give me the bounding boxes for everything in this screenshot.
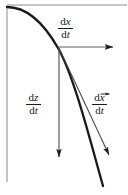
vector-derivative-figure: dx dt dz dt dx dt xyxy=(0,0,128,195)
variable-z: z xyxy=(34,91,38,103)
fraction-dx-dt: dx dt xyxy=(58,16,73,40)
label-dvecx-dt: dx dt xyxy=(92,88,107,116)
variable-x: x xyxy=(100,91,105,103)
fraction-denominator: dt xyxy=(94,105,105,117)
variable-t: t xyxy=(67,28,70,40)
variable-t: t xyxy=(35,104,38,116)
trajectory-curve xyxy=(7,7,103,186)
fraction-numerator: dx xyxy=(93,92,105,104)
fraction-dvecx-dt: dx dt xyxy=(92,92,107,116)
fraction-dz-dt: dz dt xyxy=(26,92,41,116)
variable-x: x xyxy=(66,15,71,27)
vector-x-group: x xyxy=(100,92,105,103)
variable-t: t xyxy=(101,104,104,116)
label-dz-dt: dz dt xyxy=(26,88,41,116)
label-dx-dt: dx dt xyxy=(58,12,73,40)
fraction-denominator: dt xyxy=(60,29,71,41)
fraction-numerator: dx xyxy=(59,16,71,28)
fraction-denominator: dt xyxy=(28,105,39,117)
fraction-numerator: dz xyxy=(28,92,40,104)
